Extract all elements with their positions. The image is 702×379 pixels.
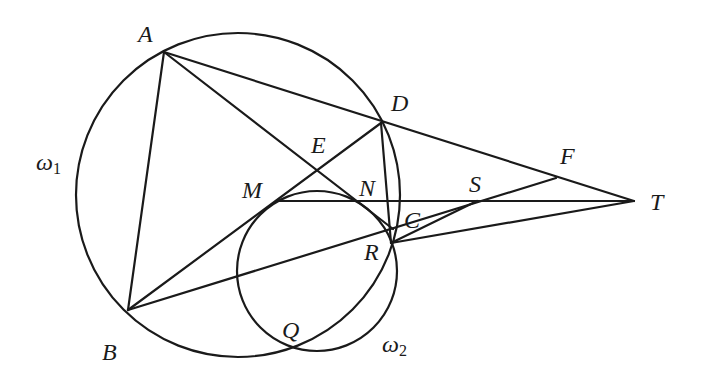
segment-AB bbox=[128, 52, 164, 310]
diagram-canvas bbox=[0, 0, 702, 379]
omega1-sub: 1 bbox=[53, 160, 61, 177]
segment-BF bbox=[128, 178, 556, 310]
point-label-S: S bbox=[469, 172, 481, 196]
point-label-R: R bbox=[364, 240, 379, 264]
omega1-main: ω bbox=[36, 149, 53, 175]
omega2-main: ω bbox=[382, 331, 399, 357]
point-label-N: N bbox=[359, 176, 375, 200]
circle-label-omega2: ω2 bbox=[382, 332, 407, 359]
point-label-C: C bbox=[404, 208, 420, 232]
point-label-Q: Q bbox=[282, 318, 299, 342]
geometry-diagram: A B C D E F M N Q R S T ω1 ω2 bbox=[0, 0, 702, 379]
point-label-B: B bbox=[102, 340, 117, 364]
segment-BD bbox=[128, 123, 381, 310]
point-label-E: E bbox=[311, 133, 326, 157]
point-label-D: D bbox=[391, 91, 408, 115]
circle-label-omega1: ω1 bbox=[36, 150, 61, 177]
point-label-M: M bbox=[242, 178, 262, 202]
point-label-T: T bbox=[650, 190, 663, 214]
segment-RT bbox=[391, 201, 634, 243]
circle-omega1 bbox=[76, 33, 400, 357]
point-label-A: A bbox=[138, 22, 153, 46]
omega2-sub: 2 bbox=[399, 342, 407, 359]
circle-omega2 bbox=[237, 191, 397, 351]
point-label-F: F bbox=[560, 144, 575, 168]
